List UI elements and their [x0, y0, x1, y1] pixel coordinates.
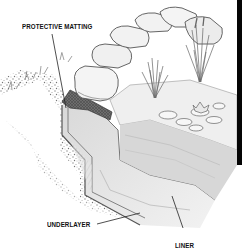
label-underlayer: UNDERLAYER — [47, 221, 90, 228]
pond-edge-diagram: PROTECTIVE MATTING UNDERLAYER LINER — [0, 0, 242, 252]
edge-bar — [237, 0, 242, 165]
label-protective-matting: PROTECTIVE MATTING — [22, 23, 92, 30]
label-liner: LINER — [175, 242, 194, 249]
pond-cross-section-illustration — [0, 0, 242, 252]
